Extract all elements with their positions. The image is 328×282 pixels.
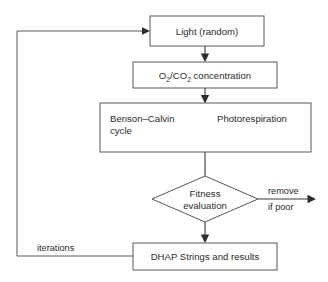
node-fitness-evaluation-label-line1: Fitness bbox=[190, 188, 221, 199]
label-o: O bbox=[159, 70, 166, 81]
edge-arrowhead-fitness-remove bbox=[308, 195, 317, 203]
feedback-loop-arrowhead bbox=[142, 27, 150, 35]
node-light-random[interactable]: Light (random) bbox=[150, 16, 264, 46]
node-processes[interactable]: Benson–Calvin cycle Photorespiration bbox=[100, 103, 311, 152]
node-photorespiration-label: Photorespiration bbox=[217, 113, 287, 124]
edge-arrowhead-light-concentration bbox=[201, 54, 209, 63]
node-fitness-evaluation-label-line2: evaluation bbox=[183, 200, 227, 211]
node-dhap-strings-results[interactable]: DHAP Strings and results bbox=[133, 243, 277, 270]
edge-concentration-to-processes bbox=[201, 88, 209, 104]
flowchart-canvas: iterations remove if poor bbox=[0, 0, 328, 282]
edge-arrowhead-concentration-processes bbox=[201, 95, 209, 104]
node-o2-co2-concentration-label: O2/CO2 concentration bbox=[159, 70, 251, 83]
edge-label-iterations: iterations bbox=[37, 243, 75, 253]
edge-fitness-to-dhap bbox=[201, 222, 209, 243]
node-light-random-label: Light (random) bbox=[176, 26, 238, 37]
node-o2-co2-concentration[interactable]: O2/CO2 concentration bbox=[133, 62, 277, 88]
node-benson-calvin-label-line1: Benson–Calvin bbox=[110, 113, 175, 124]
node-fitness-evaluation-diamond[interactable] bbox=[152, 176, 258, 222]
label-slash-co: /CO bbox=[170, 70, 187, 81]
flowchart-diagram: iterations remove if poor bbox=[0, 0, 328, 282]
label-concentration-tail: concentration bbox=[191, 70, 251, 81]
edge-arrowhead-fitness-dhap bbox=[201, 235, 209, 244]
node-benson-calvin-label-line2: cycle bbox=[110, 125, 132, 136]
node-dhap-strings-results-label: DHAP Strings and results bbox=[151, 251, 260, 262]
edge-label-remove: remove bbox=[268, 186, 299, 196]
edge-fitness-to-remove: remove if poor bbox=[258, 186, 316, 212]
node-fitness-evaluation[interactable]: Fitness evaluation bbox=[152, 176, 258, 222]
edge-label-if-poor: if poor bbox=[268, 202, 294, 212]
edge-light-to-concentration bbox=[201, 46, 209, 62]
